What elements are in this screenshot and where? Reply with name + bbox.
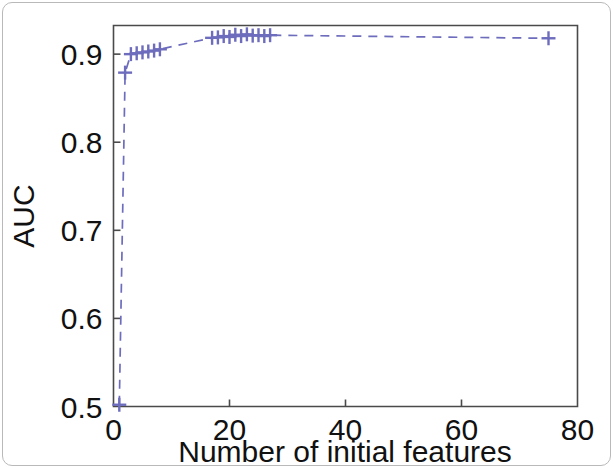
series-markers-auc [112,27,555,411]
series-line-auc [119,34,548,404]
x-tick-label: 80 [561,413,594,446]
y-axis-tick-labels: 0.50.60.70.80.9 [61,38,103,423]
y-tick-label: 0.9 [61,38,103,71]
x-axis-ticks [230,400,462,407]
data-point [542,31,556,45]
y-tick-label: 0.5 [61,391,103,424]
y-tick-label: 0.6 [61,302,103,335]
data-point [118,66,132,80]
figure-page: 020406080 0.50.60.70.80.9 Number of init… [0,0,613,468]
chart-figure: 020406080 0.50.60.70.80.9 Number of init… [0,0,613,468]
auc-line-chart: 020406080 0.50.60.70.80.9 Number of init… [0,0,613,468]
y-tick-label: 0.8 [61,126,103,159]
y-axis-ticks [114,54,121,318]
data-series-group [112,27,555,411]
x-tick-label: 0 [105,413,122,446]
x-axis-title: Number of initial features [178,435,512,468]
y-tick-label: 0.7 [61,214,103,247]
data-point [112,398,126,412]
plot-frame [114,26,578,407]
y-axis-title: AUC [7,184,40,247]
